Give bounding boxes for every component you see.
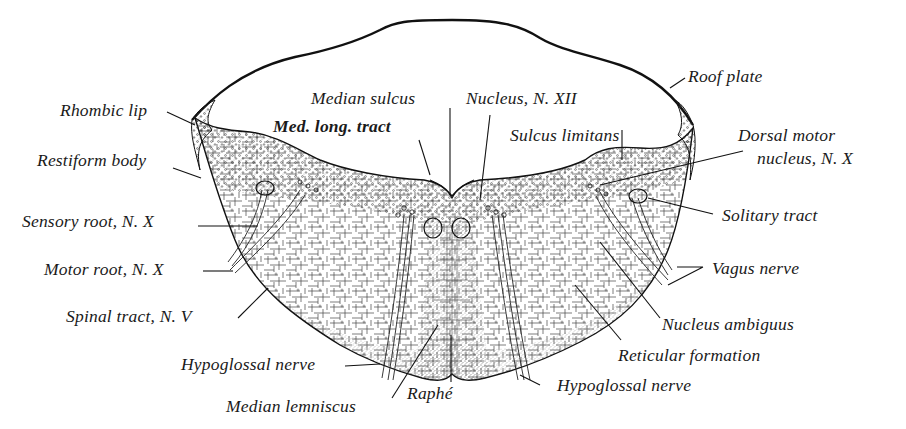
label-median-sulcus: Median sulcus xyxy=(311,90,415,108)
roof-plate-outline xyxy=(192,20,693,125)
label-reticular-formation: Reticular formation xyxy=(618,347,760,365)
label-roof-plate: Roof plate xyxy=(688,68,762,86)
label-hypoglossal-nerve-left: Hypoglossal nerve xyxy=(181,356,315,374)
label-dorsal-motor-nucleus-line2: nucleus, N. X xyxy=(757,150,853,168)
label-med-long-tract: Med. long. tract xyxy=(273,118,391,136)
label-nucleus-n-xii: Nucleus, N. XII xyxy=(466,90,577,108)
label-median-lemniscus: Median lemniscus xyxy=(226,398,356,416)
label-rhombic-lip: Rhombic lip xyxy=(60,102,147,120)
label-spinal-tract: Spinal tract, N. V xyxy=(66,308,192,326)
label-sulcus-limitans: Sulcus limitans xyxy=(510,127,619,145)
label-vagus-nerve: Vagus nerve xyxy=(712,260,799,278)
label-sensory-root: Sensory root, N. X xyxy=(22,213,154,231)
label-raphe: Raphé xyxy=(407,385,453,403)
label-restiform-body: Restiform body xyxy=(37,152,146,170)
label-motor-root: Motor root, N. X xyxy=(44,261,164,279)
label-nucleus-ambiguus: Nucleus ambiguus xyxy=(662,316,794,334)
label-solitary-tract: Solitary tract xyxy=(722,207,818,225)
label-dorsal-motor-nucleus-line1: Dorsal motor xyxy=(738,127,835,145)
label-hypoglossal-nerve-right: Hypoglossal nerve xyxy=(557,377,691,395)
